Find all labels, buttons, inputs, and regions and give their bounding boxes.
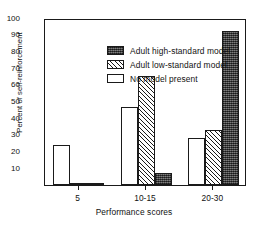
y-tick-label: 30 [0, 131, 20, 139]
y-tick-label: 70 [0, 65, 20, 73]
legend-label-no-model: No model present [130, 74, 198, 84]
legend-swatch-no-model [107, 74, 124, 83]
legend-item: No model present [107, 72, 230, 85]
x-tick-label: 10-15 [134, 193, 155, 203]
y-tick-label: 80 [0, 48, 20, 56]
bar [155, 173, 172, 185]
bar [138, 76, 155, 185]
bar [53, 145, 70, 185]
y-tick-label: 90 [0, 31, 20, 39]
bar [87, 183, 104, 185]
chart-legend: Adult high-standard model Adult low-stan… [107, 44, 230, 86]
y-tick-label: 100 [0, 15, 20, 23]
legend-item: Adult low-standard model [107, 58, 230, 71]
legend-swatch-high-standard [107, 46, 124, 55]
x-tick-mark [212, 186, 213, 190]
legend-label-low-standard: Adult low-standard model [130, 60, 227, 70]
bar [121, 107, 138, 185]
y-tick-label: 50 [0, 98, 20, 106]
x-tick-label: 5 [75, 193, 80, 203]
x-tick-mark [78, 186, 79, 190]
bar [188, 138, 205, 185]
legend-item: Adult high-standard model [107, 44, 230, 57]
bar [70, 183, 87, 186]
legend-swatch-low-standard [107, 60, 124, 69]
legend-label-high-standard: Adult high-standard model [130, 46, 230, 56]
y-tick-label: 60 [0, 81, 20, 89]
x-axis-title: Performance scores [0, 207, 268, 217]
x-tick-mark [145, 186, 146, 190]
y-tick-label: 20 [0, 148, 20, 156]
y-tick-label: 10 [0, 165, 20, 173]
plot-area: Adult high-standard model Adult low-stan… [44, 19, 246, 186]
y-tick-label: 40 [0, 115, 20, 123]
bar-chart: Percent of self-reinforcement 1020304050… [0, 0, 268, 233]
bar [205, 130, 222, 185]
x-tick-label: 20-30 [202, 193, 223, 203]
